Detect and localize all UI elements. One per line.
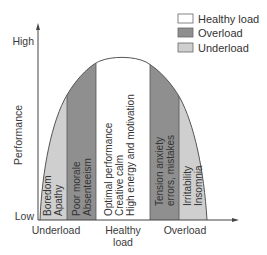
legend-label-overload: Overload <box>198 27 243 39</box>
legend: Healthy load Overload Underload <box>178 13 259 54</box>
svg-text:Tension anxiety: Tension anxiety <box>154 137 165 206</box>
svg-text:Insomnia: Insomnia <box>193 165 204 206</box>
x-label-underload: Underload <box>32 224 81 236</box>
svg-text:Creative calm: Creative calm <box>114 155 125 216</box>
svg-text:Irritability: Irritability <box>182 166 193 206</box>
svg-text:Absenteeism: Absenteeism <box>82 158 93 216</box>
legend-swatch-underload <box>178 43 193 52</box>
x-axis-arrow-icon <box>232 218 239 222</box>
y-low-label: Low <box>15 210 35 222</box>
band-text-underload-right: Irritability Insomnia <box>182 165 204 206</box>
legend-swatch-overload <box>178 28 193 37</box>
legend-label-healthy: Healthy load <box>198 13 259 25</box>
band-text-overload-right: Tension anxiety errors, mistakes <box>154 135 176 206</box>
svg-text:Boredom: Boredom <box>42 175 53 216</box>
svg-text:Apathy: Apathy <box>53 185 64 216</box>
svg-text:High energy and motivation: High energy and motivation <box>125 94 136 216</box>
x-label-healthy-line2: load <box>113 236 133 248</box>
svg-text:Optimal performance: Optimal performance <box>103 122 114 216</box>
legend-label-underload: Underload <box>198 42 249 54</box>
y-high-label: High <box>12 35 34 47</box>
load-performance-diagram: High Low Performance Underload Healthy l… <box>0 0 267 255</box>
x-label-healthy-line1: Healthy <box>105 224 141 236</box>
band-text-overload-left: Poor morale Absenteeism <box>71 158 93 216</box>
svg-text:Poor morale: Poor morale <box>71 161 82 216</box>
x-label-overload: Overload <box>164 224 207 236</box>
legend-swatch-healthy <box>178 14 193 23</box>
y-axis-title: Performance <box>12 105 24 165</box>
y-axis-arrow-icon <box>36 23 40 30</box>
svg-text:errors, mistakes: errors, mistakes <box>165 135 176 206</box>
